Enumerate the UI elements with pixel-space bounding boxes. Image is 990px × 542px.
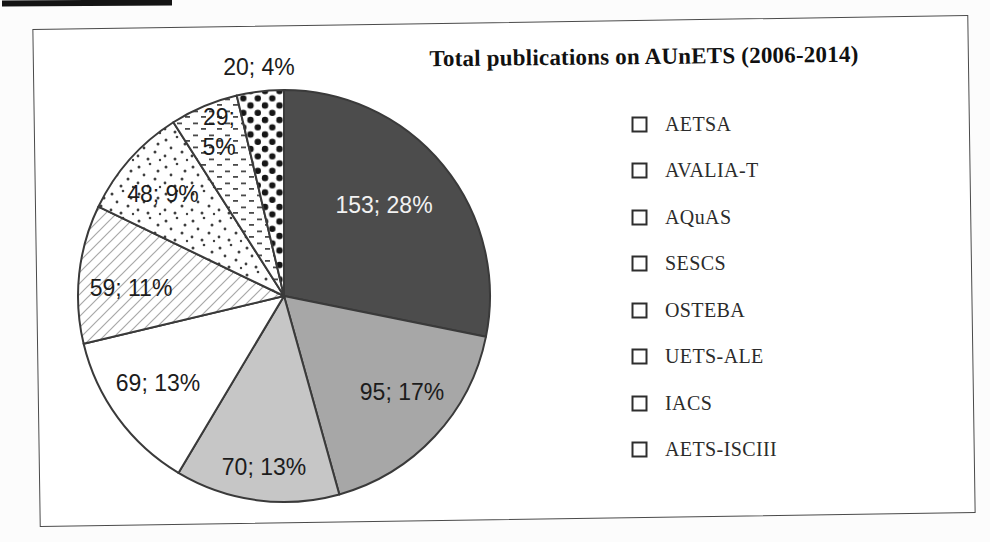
legend-item-sescs: SESCS <box>631 241 777 288</box>
legend-swatch-avalia-t <box>631 162 648 179</box>
legend-item-aquas: AQuAS <box>631 194 777 241</box>
legend: AETSA AVALIA-T AQuAS SESCS OSTEBA UETS-A… <box>631 101 777 473</box>
legend-item-uets-ale: UETS-ALE <box>631 334 777 381</box>
legend-item-iacs: IACS <box>631 380 777 427</box>
legend-swatch-osteba <box>631 302 648 319</box>
legend-label-aets-isciii: AETS-ISCIII <box>665 438 777 461</box>
slice-label-osteba: 59; 11% <box>90 273 173 303</box>
slice-label-uets-ale: 48; 9% <box>127 179 199 209</box>
legend-swatch-sescs <box>631 255 648 272</box>
legend-swatch-uets-ale <box>631 348 648 365</box>
pie-chart <box>0 0 990 542</box>
slice-label-avalia-t: 95; 17% <box>360 377 444 407</box>
legend-label-osteba: OSTEBA <box>665 299 745 322</box>
legend-swatch-aets-isciii <box>631 441 648 458</box>
legend-swatch-iacs <box>631 395 648 412</box>
legend-label-sescs: SESCS <box>665 252 726 275</box>
legend-item-aets-isciii: AETS-ISCIII <box>631 427 777 474</box>
slice-label-aquas: 70; 13% <box>222 452 306 482</box>
legend-label-aquas: AQuAS <box>665 206 731 229</box>
slice-label-aets-isciii: 20; 4% <box>223 52 295 82</box>
legend-label-aetsa: AETSA <box>665 113 731 136</box>
legend-label-iacs: IACS <box>665 392 712 415</box>
slice-label-sescs: 69; 13% <box>116 368 200 398</box>
scanned-figure: Total publications on AUnETS (2006-2014) <box>0 0 990 542</box>
legend-label-avalia-t: AVALIA-T <box>665 159 759 182</box>
legend-item-aetsa: AETSA <box>631 101 777 148</box>
legend-item-avalia-t: AVALIA-T <box>631 148 777 195</box>
legend-swatch-aetsa <box>631 116 648 133</box>
slice-label-aetsa: 153; 28% <box>335 190 432 220</box>
slice-label-iacs: 29; 5% <box>202 102 235 163</box>
legend-swatch-aquas <box>631 209 648 226</box>
legend-label-uets-ale: UETS-ALE <box>665 345 764 368</box>
legend-item-osteba: OSTEBA <box>631 287 777 334</box>
